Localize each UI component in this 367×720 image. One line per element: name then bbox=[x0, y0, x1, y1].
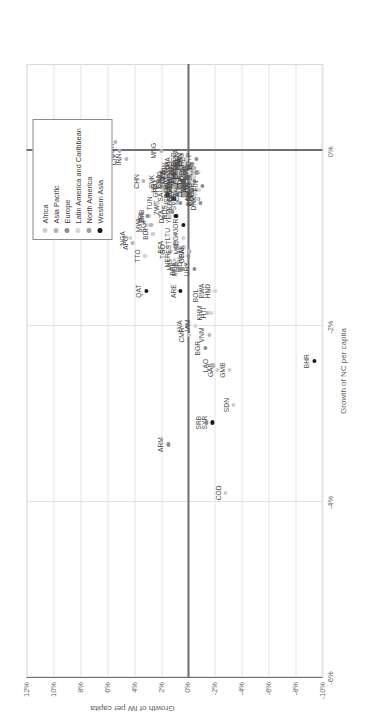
scatter-point bbox=[144, 289, 148, 293]
scatter-point bbox=[150, 232, 154, 236]
gridline-horizontal bbox=[134, 64, 135, 677]
scatter-point-label: LAO bbox=[201, 359, 208, 373]
scatter-point bbox=[178, 201, 182, 205]
gridline-horizontal bbox=[295, 64, 296, 677]
scatter-point-label: ARM bbox=[157, 437, 164, 452]
scatter-point-label: GMB bbox=[218, 362, 225, 377]
screenshot-canvas: IRQKWTQATAREBHRSYRISRYEMJORSAUOMNLBNTURL… bbox=[0, 0, 367, 720]
scatter-point bbox=[166, 442, 170, 446]
scatter-point-label: BGR bbox=[194, 341, 201, 356]
legend-swatch-icon bbox=[42, 228, 47, 233]
scatter-point bbox=[148, 223, 152, 227]
scatter-point-label: MNG bbox=[150, 143, 157, 159]
scatter-point bbox=[193, 157, 197, 161]
scatter-point bbox=[145, 214, 149, 218]
scatter-point-label: HTI bbox=[199, 308, 206, 319]
scatter-point-label: GBR bbox=[177, 249, 184, 264]
scatter-point bbox=[195, 197, 199, 201]
scatter-point bbox=[197, 188, 201, 192]
scatter-point-label: JOR bbox=[172, 219, 179, 233]
scatter-point bbox=[193, 324, 197, 328]
scatter-point bbox=[231, 403, 235, 407]
scatter-point-label: QAT bbox=[135, 284, 142, 297]
y-axis-tick-label: -2% bbox=[210, 682, 219, 704]
y-axis-tick-label: -8% bbox=[291, 682, 300, 704]
scatter-point bbox=[223, 491, 227, 495]
x-axis-title: Growth of NC per capita bbox=[338, 328, 347, 414]
legend-item-label: Europe bbox=[62, 200, 71, 224]
y-axis-tick-label: 12% bbox=[22, 682, 31, 704]
scatter-point bbox=[158, 149, 162, 153]
y-axis-tick-label: 8% bbox=[75, 682, 84, 704]
scatter-point-label: BHR bbox=[303, 354, 310, 368]
scatter-point bbox=[184, 157, 188, 161]
scatter-point bbox=[198, 201, 202, 205]
scatter-point bbox=[210, 364, 214, 368]
scatter-point bbox=[186, 254, 190, 258]
scatter-point bbox=[142, 254, 146, 258]
scatter-point-label: IRN bbox=[115, 154, 122, 166]
y-axis-tick-label: 0% bbox=[183, 682, 192, 704]
legend-item-north-america[interactable]: North America bbox=[83, 128, 94, 233]
scatter-point-label: SDN bbox=[222, 398, 229, 412]
x-axis-tick-label: 0% bbox=[325, 146, 334, 157]
legend-item-latin-america-and-caribbean[interactable]: Latin America and Caribbean bbox=[72, 128, 83, 233]
scatter-point bbox=[181, 223, 185, 227]
scatter-point bbox=[204, 421, 208, 425]
legend-item-africa[interactable]: Africa bbox=[39, 128, 50, 233]
scatter-point bbox=[173, 232, 177, 236]
scatter-point-label: SRB bbox=[195, 416, 202, 430]
gridline-horizontal bbox=[322, 64, 323, 677]
scatter-point-label: ECU bbox=[171, 170, 178, 184]
y-axis-tick-label: -10% bbox=[318, 682, 327, 704]
legend-item-asia-pacific[interactable]: Asia Pacific bbox=[50, 128, 61, 233]
legend-item-label: Latin America and Caribbean bbox=[73, 128, 82, 223]
scatter-point bbox=[227, 368, 231, 372]
scatter-point-label: CUB bbox=[188, 183, 195, 197]
scatter-point-label: IRL bbox=[136, 211, 143, 222]
gridline-horizontal bbox=[268, 64, 269, 677]
gridline-vertical bbox=[26, 501, 322, 502]
scatter-point bbox=[117, 149, 121, 153]
scatter-point bbox=[208, 311, 212, 315]
legend: AfricaAsia PacificEuropeLatin America an… bbox=[32, 119, 112, 240]
scatter-point-label: ARE bbox=[169, 284, 176, 298]
scatter-point bbox=[123, 157, 127, 161]
scatter-point bbox=[187, 333, 191, 337]
legend-item-western-asia[interactable]: Western Asia bbox=[94, 128, 105, 233]
gridline-horizontal bbox=[241, 64, 242, 677]
legend-swatch-icon bbox=[86, 228, 91, 233]
scatter-point bbox=[181, 192, 185, 196]
gridline-horizontal bbox=[26, 64, 27, 677]
scatter-point bbox=[194, 171, 198, 175]
scatter-point bbox=[207, 333, 211, 337]
gridline-vertical bbox=[26, 325, 322, 326]
x-axis-tick-label: -6% bbox=[325, 671, 334, 684]
scatter-point-label: TUN bbox=[146, 196, 153, 210]
scatter-point-label: CAN bbox=[172, 187, 179, 201]
scatter-point bbox=[181, 236, 185, 240]
y-axis-tick-label: 2% bbox=[156, 682, 165, 704]
scatter-point-label: LVA bbox=[176, 320, 183, 332]
scatter-point bbox=[130, 241, 134, 245]
scatter-point bbox=[203, 346, 207, 350]
scatter-figure: IRQKWTQATAREBHRSYRISRYEMJORSAUOMNLBNTURL… bbox=[0, 0, 367, 720]
scatter-point-label: BFA bbox=[156, 241, 163, 254]
x-axis-tick-label: -4% bbox=[325, 496, 334, 509]
legend-item-label: Asia Pacific bbox=[51, 185, 60, 223]
scatter-point bbox=[141, 179, 145, 183]
y-axis-tick-label: -4% bbox=[237, 682, 246, 704]
scatter-point-label: LTU bbox=[164, 228, 171, 240]
scatter-point bbox=[212, 289, 216, 293]
gridline-horizontal bbox=[161, 64, 162, 677]
legend-swatch-icon bbox=[97, 228, 102, 233]
legend-swatch-icon bbox=[53, 228, 58, 233]
scatter-point-label: EST bbox=[164, 241, 171, 254]
scatter-point-label: USA bbox=[164, 179, 171, 193]
scatter-point bbox=[179, 267, 183, 271]
scatter-point-label: TTO bbox=[133, 249, 140, 262]
legend-item-label: North America bbox=[84, 177, 93, 224]
y-axis-tick-label: 4% bbox=[129, 682, 138, 704]
legend-item-europe[interactable]: Europe bbox=[61, 128, 72, 233]
y-axis-tick-label: -6% bbox=[264, 682, 273, 704]
